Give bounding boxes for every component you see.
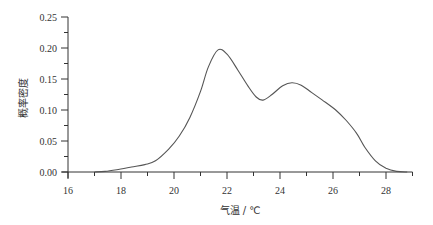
y-tick-label: 0.15 — [40, 74, 58, 85]
y-tick-label: 0.10 — [40, 105, 58, 116]
density-curve — [95, 49, 408, 172]
y-tick-label: 0.00 — [40, 167, 58, 178]
x-tick-label: 18 — [116, 185, 126, 196]
y-tick-label: 0.05 — [40, 136, 58, 147]
y-axis-ticks: 0.000.050.100.150.200.25 — [40, 12, 69, 178]
y-tick-label: 0.20 — [40, 43, 58, 54]
y-tick-label: 0.25 — [40, 12, 58, 23]
x-axis-ticks: 16182022242628 — [63, 172, 413, 196]
x-axis-title: 气温 / ℃ — [220, 204, 261, 216]
x-tick-label: 26 — [328, 185, 338, 196]
density-chart: 0.000.050.100.150.200.25 16182022242628 … — [0, 0, 433, 225]
y-axis-title: 概率密度 — [17, 78, 29, 118]
x-tick-label: 20 — [169, 185, 179, 196]
x-tick-label: 22 — [222, 185, 232, 196]
x-tick-label: 28 — [381, 185, 391, 196]
x-tick-label: 24 — [275, 185, 285, 196]
x-tick-label: 16 — [63, 185, 73, 196]
